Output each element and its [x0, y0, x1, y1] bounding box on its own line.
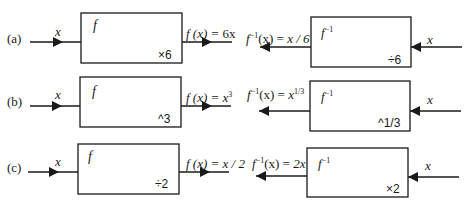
output-label-c: f (x) = x / 2 — [186, 157, 245, 170]
inverse-input-label-a: x — [427, 33, 433, 46]
inverse-input-label-c: x — [425, 159, 431, 172]
input-label-b: x — [55, 88, 61, 101]
inv-sup: −1 — [250, 31, 259, 40]
box-sup: −1 — [325, 25, 334, 34]
output-label-b: f (x) = x3 — [186, 91, 232, 104]
inverse-output-label-c: f−1(x) = 2x — [252, 157, 305, 170]
output-lhs: f (x) = — [186, 26, 223, 41]
output-lhs: f (x) = — [186, 90, 223, 105]
row-label-c: (c) — [7, 161, 21, 174]
arrowhead-in-b — [52, 101, 62, 111]
arrowhead-in-inv-c — [408, 172, 418, 182]
operation-inv-a: ÷6 — [388, 54, 401, 66]
operation-b: ^3 — [158, 113, 170, 125]
output-label-a: f (x) = 6x — [186, 27, 236, 40]
inverse-output-label-a: f−1(x) = x / 6 — [246, 32, 310, 45]
inverse-input-label-b: x — [427, 93, 433, 106]
output-rhs-sup: 3 — [228, 90, 232, 99]
inv-rhs-sup: 1/3 — [294, 87, 304, 96]
inv-mid: (x) = — [259, 87, 288, 102]
box-sup: −1 — [322, 156, 331, 165]
operation-c: ÷2 — [155, 178, 168, 190]
output-rhs: x / 2 — [223, 156, 245, 171]
arrowhead-in-inv-a — [411, 42, 421, 52]
output-rhs: 6x — [223, 26, 236, 41]
box-name-f-b: f — [92, 85, 96, 99]
box-name-finv-a: f−1 — [321, 26, 333, 39]
box-name-f-c: f — [88, 150, 92, 164]
inv-sup: −1 — [251, 87, 260, 96]
output-lhs: f (x) = — [186, 156, 223, 171]
inv-sup: −1 — [256, 156, 265, 165]
arrowhead-in-inv-b — [410, 106, 420, 116]
operation-inv-b: ^1/3 — [378, 117, 400, 129]
row-label-a: (a) — [7, 32, 21, 45]
arrowhead-out-inv-b — [259, 106, 269, 116]
inv-rhs: 2x — [293, 156, 305, 171]
row-label-b: (b) — [7, 95, 22, 108]
operation-inv-c: ×2 — [386, 183, 400, 195]
inv-mid: (x) = — [264, 156, 293, 171]
input-label-c: x — [55, 155, 61, 168]
box-name-finv-b: f−1 — [321, 90, 333, 103]
inv-mid: (x) = — [258, 31, 287, 46]
inv-rhs: x / 6 — [287, 31, 309, 46]
operation-a: ×6 — [158, 49, 172, 61]
arrowhead-out-inv-c — [256, 171, 266, 181]
box-name-f-a: f — [93, 19, 97, 33]
box-name-finv-c: f−1 — [318, 157, 330, 170]
inverse-output-label-b: f−1(x) = x1/3 — [247, 88, 304, 101]
input-label-a: x — [55, 25, 61, 38]
box-sup: −1 — [325, 89, 334, 98]
